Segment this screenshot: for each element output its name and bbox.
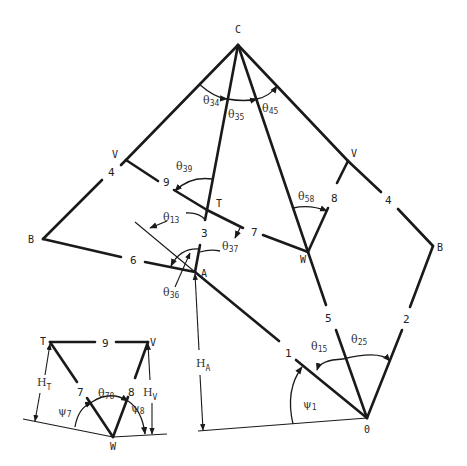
arc-theta35 [227,99,257,101]
label-theta45: θ45 [262,102,278,116]
inset-member-8-lower [113,397,128,437]
inset-ground-line-right [113,434,167,437]
member-7-lower [263,235,308,252]
label-theta36: θ36 [163,286,179,300]
member-label-9: 9 [163,176,170,189]
node-C: C [235,24,241,35]
inset-label-psi7: ψ7 [58,405,72,419]
inset-height-HT-upper [45,344,50,375]
member-6-left [43,239,121,257]
member-9-upper [126,160,158,181]
inset-member-label-7: 7 [77,386,84,399]
label-theta25: θ25 [351,333,367,347]
label-HA: HA [196,357,211,373]
member-label-4-left: 4 [108,166,115,179]
inset-node-V: V [150,337,156,348]
arc-theta25 [343,355,390,361]
arc-theta39 [175,179,212,192]
node-O: 0 [364,424,370,435]
member-label-7: 7 [251,226,258,239]
height-HA-upper [195,274,199,350]
member-9-lower [174,190,207,210]
label-theta39: θ39 [176,160,192,174]
label-psi1: ψ1 [303,398,317,412]
node-V-left: V [112,149,118,160]
member-label-3: 3 [201,227,208,240]
member-1-extension-line [135,222,195,272]
arc-theta58 [293,207,327,211]
member-5-upper [238,45,308,252]
member-label-5: 5 [325,312,332,325]
label-theta37: θ37 [222,240,238,254]
member-8-lower [308,208,328,252]
arc-theta15 [317,359,343,370]
inset-label-HT: HT [37,376,52,392]
angle-labels: θ34 θ35 θ45 θ39 θ13 θ37 θ36 θ58 θ15 θ25 … [163,94,367,412]
member-label-8: 8 [331,192,338,205]
member-label-6: 6 [130,254,137,267]
member-8-upper [337,161,348,183]
inset-diagram: T V W 9 7 8 θ78 ψ7 ψ8 HT HV [23,336,167,452]
arc-theta37-at-A [200,250,220,252]
arc-theta37-arrow [235,226,241,238]
inset-arc-psi7 [75,402,92,427]
label-theta58: θ58 [298,190,314,204]
inset-height-HV-upper [148,344,150,380]
node-T: T [216,198,222,209]
angle-arcs [150,84,390,424]
arc-theta37-line [186,213,206,220]
label-theta35: θ35 [228,108,244,122]
node-A: A [201,268,207,279]
node-labels: C V V B B T A W 0 [28,24,443,435]
main-structure [43,45,433,431]
node-W: W [300,254,307,265]
inset-member-label-9: 9 [102,337,109,350]
arc-psi1 [290,367,302,424]
member-4-right-lower-b [398,209,433,246]
inset-member-8-upper [135,342,148,378]
inset-label-HV: HV [143,386,158,402]
member-label-2: 2 [403,313,410,326]
inset-member-label-8: 8 [128,386,135,399]
member-label-1: 1 [285,347,292,360]
member-4-right-lower-a [348,161,381,192]
member-2-upper [410,246,433,307]
inset-ground-line-left [23,419,113,437]
node-B-right: B [437,242,443,253]
height-HA-lower [200,375,203,430]
member-6-right [145,262,195,272]
node-B-left: B [28,234,34,245]
inset-label-theta78: θ78 [98,387,114,401]
inset-member-7-upper [50,342,77,382]
inset-height-HT-lower [35,393,40,421]
member-2-lower [367,330,402,418]
label-theta15: θ15 [311,340,327,354]
label-theta13: θ13 [163,211,179,225]
inset-member-7-lower [87,398,113,437]
ground-line [198,418,367,431]
member-3-upper [207,45,238,210]
inset-node-W: W [110,441,117,452]
member-1-upper [195,272,279,341]
structure-diagram: C V V B B T A W 0 4 4 9 3 7 8 6 5 1 2 θ3… [0,0,467,466]
inset-label-psi8: ψ8 [131,402,145,416]
member-4-left-upper [126,45,238,160]
member-5-mid [308,252,326,305]
member-label-4-right: 4 [385,194,392,207]
member-4-left-lower-b [43,180,102,239]
node-V-right: V [351,148,357,159]
arc-theta45 [257,86,277,99]
member-7-upper [207,210,243,228]
member-4-right-upper [238,45,348,161]
inset-node-T: T [40,336,46,347]
